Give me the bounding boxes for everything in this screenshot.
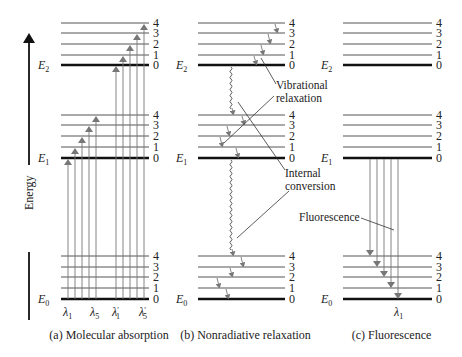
relaxation-step-arrow-icon (275, 24, 277, 31)
relaxation-step-arrow-icon (217, 278, 219, 286)
panel-caption: (c) Fluorescence (352, 328, 432, 342)
state-e2-levels: 01234E2 (320, 16, 442, 74)
wavelength-label: λ1 (393, 305, 403, 321)
relaxation-step-arrow-icon (261, 45, 263, 53)
arrowhead-icon (232, 108, 233, 113)
wavelength-label: λ′1 (111, 305, 120, 321)
state-e0-levels: 01234E0 (320, 249, 442, 308)
relaxation-step-arrow-icon (226, 289, 228, 297)
electronic-state-label: E0 (37, 292, 49, 308)
vibrational-level-number: 4 (153, 108, 159, 122)
state-e2-levels: 01234E2 (175, 16, 295, 74)
internal-conversion-label: conversion (285, 180, 336, 192)
panel-b: 01234E201234E101234E0(b) Nonradiative re… (175, 16, 336, 342)
relaxation-step-arrow-icon (268, 34, 270, 42)
vibrational-level-number: 4 (153, 249, 159, 263)
electronic-state-label: E1 (320, 151, 332, 167)
electronic-state-label: E2 (175, 58, 187, 74)
panel-caption: (b) Nonradiative relaxation (180, 328, 311, 342)
panel-c: 01234E201234E101234E0(c) FluorescenceFlu… (299, 16, 442, 342)
relaxation-step-arrow-icon (242, 116, 244, 123)
relaxation-step-arrow-icon (220, 137, 222, 145)
wavelength-label: λ1 (62, 305, 72, 321)
electronic-state-label: E1 (37, 151, 49, 167)
electronic-state-label: E0 (175, 292, 187, 308)
fluorescence-arrows (370, 159, 398, 296)
vibrational-level-number: 4 (436, 108, 442, 122)
internal-conversion-label: Internal (285, 167, 321, 179)
arrowhead-icon (232, 249, 233, 254)
vibrational-relaxation-label: Vibrational (276, 79, 328, 91)
electronic-state-label: E2 (37, 58, 49, 74)
state-e1-levels: 01234E1 (37, 108, 159, 167)
internal-conversion-wavy-arrow (230, 67, 232, 109)
panel-caption: (a) Molecular absorption (49, 328, 168, 342)
energy-axis-label: Energy (22, 176, 36, 210)
vibrational-level-number: 4 (289, 108, 295, 122)
internal-conversion-pointer (237, 191, 289, 238)
relaxation-step-arrow-icon (236, 148, 238, 156)
fluorescence-label: Fluorescence (299, 211, 360, 223)
vibrational-level-number: 4 (436, 249, 442, 263)
fluorescence-pointer (361, 218, 394, 230)
relaxation-step-arrow-icon (254, 56, 256, 63)
state-e1-levels: 01234E1 (320, 108, 442, 167)
vibrational-relaxation-label: relaxation (276, 92, 322, 104)
relaxation-step-arrow-icon (241, 257, 243, 265)
state-e2-levels: 01234E2 (37, 16, 159, 74)
vibrational-level-number: 4 (289, 249, 295, 263)
vibrational-relaxation-pointer (261, 58, 276, 84)
wavelength-label: λ′5 (138, 305, 147, 321)
wavelength-label: λ5 (89, 305, 99, 321)
energy-axis: Energy (22, 38, 36, 320)
electronic-state-label: E1 (175, 151, 187, 167)
relaxation-step-arrow-icon (230, 268, 232, 275)
vibrational-level-number: 4 (436, 16, 442, 30)
internal-conversion-wavy-arrow (230, 160, 232, 250)
vibrational-level-number: 4 (153, 16, 159, 30)
vibrational-level-number: 4 (289, 16, 295, 30)
absorption-arrows (68, 27, 144, 299)
electronic-state-label: E0 (320, 292, 332, 308)
electronic-state-label: E2 (320, 58, 332, 74)
state-e0-levels: 01234E0 (175, 249, 295, 308)
relaxation-step-arrow-icon (227, 126, 229, 134)
energy-level-diagram: Energy 01234E201234E101234E0(a) Molecula… (0, 0, 462, 357)
panel-a: 01234E201234E101234E0(a) Molecular absor… (37, 16, 169, 342)
state-e0-levels: 01234E0 (37, 249, 159, 308)
